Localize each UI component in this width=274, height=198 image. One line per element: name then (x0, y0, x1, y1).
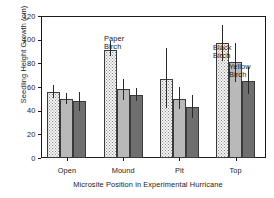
bar-chart-figure: Seedling Height Growth (cm) Microsite Po… (0, 0, 274, 198)
series-annotation: PaperBirch (104, 35, 124, 51)
error-bar (192, 95, 193, 117)
annotation-line: Birch (104, 43, 124, 51)
error-bar (166, 48, 167, 108)
bar (104, 50, 117, 158)
y-tick-mark (38, 40, 41, 41)
y-tick-label: 100 (10, 35, 36, 44)
x-tick-mark (236, 158, 237, 161)
series-annotation: YellowBirch (229, 63, 251, 79)
error-bar (136, 88, 137, 101)
x-tick-label: Pit (149, 166, 209, 175)
x-tick-mark (179, 158, 180, 161)
y-tick-mark (38, 111, 41, 112)
error-bar (123, 79, 124, 100)
bar (130, 95, 143, 158)
x-tick-mark (67, 158, 68, 161)
y-tick-mark (38, 63, 41, 64)
x-axis-title: Microsite Position in Experimental Hurri… (28, 180, 268, 189)
y-tick-mark (38, 134, 41, 135)
error-bar (79, 92, 80, 111)
y-tick-label: 80 (10, 59, 36, 68)
y-tick-mark (38, 87, 41, 88)
y-tick-mark (38, 16, 41, 17)
error-bar (179, 87, 180, 109)
y-tick-label: 120 (10, 12, 36, 21)
y-tick-label: 0 (10, 154, 36, 163)
x-tick-label: Mound (93, 166, 153, 175)
x-tick-label: Top (206, 166, 266, 175)
y-tick-label: 40 (10, 106, 36, 115)
bar (47, 92, 60, 158)
x-tick-mark (123, 158, 124, 161)
error-bar (53, 85, 54, 98)
y-tick-mark (38, 158, 41, 159)
error-bar (66, 93, 67, 104)
annotation-line: Birch (229, 71, 251, 79)
bar (60, 99, 73, 158)
y-tick-label: 20 (10, 130, 36, 139)
x-tick-label: Open (37, 166, 97, 175)
y-tick-label: 60 (10, 83, 36, 92)
annotation-line: Birch (213, 52, 232, 60)
series-annotation: BlackBirch (213, 44, 232, 60)
